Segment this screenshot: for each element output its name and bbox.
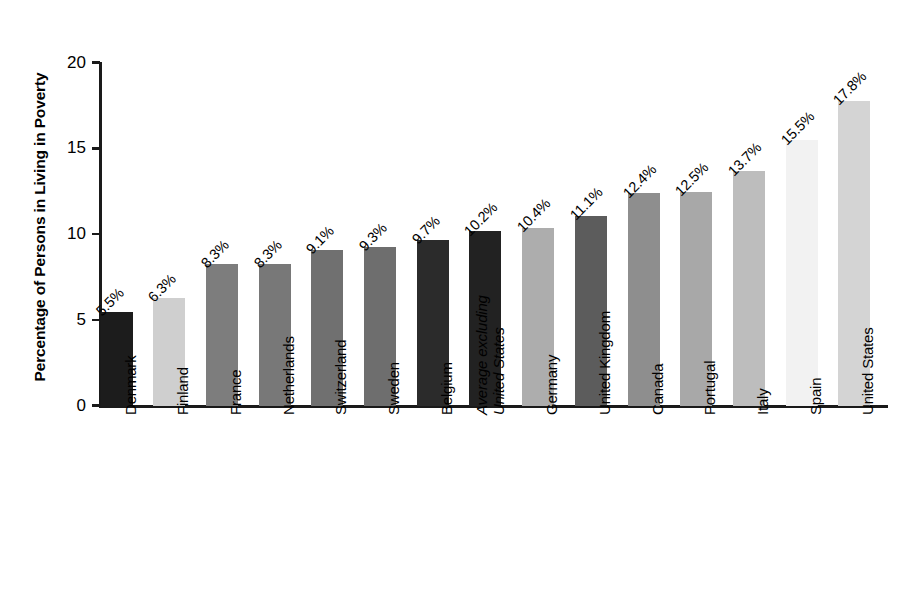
y-tick-label: 5	[50, 311, 86, 328]
category-label-line: Spain	[807, 378, 824, 415]
category-label-line: Average excluding	[473, 295, 490, 415]
category-label: Average excludingUnited States	[474, 295, 508, 415]
category-label: United Kingdom	[597, 311, 614, 415]
bar[interactable]	[733, 171, 765, 406]
category-label: France	[228, 370, 245, 416]
category-label: Portugal	[702, 361, 719, 415]
category-label-line: United Kingdom	[596, 311, 613, 415]
y-tick-mark	[92, 233, 100, 236]
category-label-line: France	[227, 370, 244, 416]
category-label-line: Italy	[754, 388, 771, 415]
y-tick-mark	[92, 404, 100, 407]
y-axis-title: Percentage of Persons in Living in Pover…	[31, 32, 49, 422]
bar-slot	[101, 62, 133, 406]
bar[interactable]	[786, 140, 818, 406]
category-label-line: Switzerland	[332, 340, 349, 415]
bar-slot	[680, 62, 712, 406]
category-label-line: Germany	[543, 355, 560, 415]
bar-slot	[733, 62, 765, 406]
y-tick-label: 20	[50, 54, 86, 71]
category-label: Italy	[755, 388, 772, 415]
bar-slot	[206, 62, 238, 406]
bar-slot	[153, 62, 185, 406]
category-label-line: Portugal	[701, 361, 718, 415]
category-label: Spain	[808, 378, 825, 415]
category-label-line: Denmark	[122, 356, 139, 415]
category-label: Belgium	[439, 362, 456, 415]
category-label-line: United States	[491, 295, 508, 415]
y-tick-mark	[92, 147, 100, 150]
category-label: Canada	[650, 364, 667, 415]
category-label-line: Belgium	[438, 362, 455, 415]
category-label-line: Finland	[174, 367, 191, 415]
y-tick-label: 15	[50, 139, 86, 156]
category-label: Finland	[175, 367, 192, 415]
category-label-line: Canada	[649, 364, 666, 415]
y-tick-label: 10	[50, 225, 86, 242]
category-label-line: United States	[859, 328, 876, 415]
category-label: Denmark	[123, 356, 140, 415]
category-label: Netherlands	[281, 336, 298, 415]
category-label-line: Sweden	[385, 362, 402, 415]
category-label-line: Netherlands	[280, 336, 297, 415]
bar-chart: Percentage of Persons in Living in Pover…	[0, 0, 917, 601]
y-tick-mark	[92, 319, 100, 322]
bar-slot	[628, 62, 660, 406]
category-label: United States	[860, 328, 877, 415]
category-label: Germany	[544, 355, 561, 415]
category-label: Switzerland	[333, 340, 350, 415]
category-label: Sweden	[386, 362, 403, 415]
y-tick-label: 0	[50, 397, 86, 414]
y-tick-mark	[92, 61, 100, 64]
